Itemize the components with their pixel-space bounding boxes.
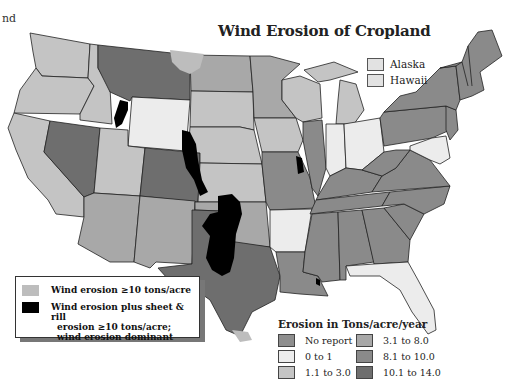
inset-alaska: Alaska [367, 56, 427, 72]
wind-ge10-swatch [22, 285, 39, 296]
class-legend-item: 0 to 1 [278, 350, 356, 363]
class-label: 3.1 to 8.0 [383, 335, 429, 346]
hawaii-label: Hawaii [390, 74, 427, 86]
wind-ge10-label: Wind erosion ≥10 tons/acre [51, 285, 191, 296]
class-label: 0 to 1 [305, 351, 333, 362]
c1-3-swatch [278, 366, 295, 379]
state-washington [30, 33, 90, 78]
state-michigan [336, 80, 364, 124]
sheet-rill-line-2: erosion ≥10 tons/acre; [51, 322, 199, 332]
inset-legend: Alaska Hawaii [367, 56, 427, 88]
state-michigan-upper [304, 62, 358, 82]
overlay-legend: Wind erosion ≥10 tons/acre Wind erosion … [15, 276, 200, 338]
class-legend-item: 1.1 to 3.0 [278, 366, 356, 379]
c0-1-swatch [278, 350, 295, 363]
state-arkansas [270, 209, 312, 252]
state-new-jersey [446, 106, 458, 140]
state-arizona [78, 193, 140, 262]
no-report-swatch [278, 334, 295, 347]
c3-8-swatch [356, 334, 373, 347]
state-iowa [254, 118, 303, 152]
c8-10-swatch [356, 350, 373, 363]
class-label: 10.1 to 14.0 [383, 367, 441, 378]
state-indiana [326, 124, 346, 176]
sheet-rill-line-1: Wind erosion plus sheet & rill [51, 302, 199, 322]
sheet-rill-swatch [22, 302, 39, 313]
wind-erosion-ge10-region-texas [232, 330, 252, 342]
state-new-mexico [134, 196, 195, 268]
class-legend-title: Erosion in Tons/acre/year [278, 318, 456, 330]
alaska-swatch [367, 58, 384, 71]
alaska-label: Alaska [390, 58, 425, 70]
hawaii-swatch [367, 74, 384, 87]
class-legend-item: 10.1 to 14.0 [356, 366, 456, 379]
class-label: No report [305, 335, 352, 346]
sheet-rill-label: Wind erosion plus sheet & rill erosion ≥… [51, 302, 199, 342]
wind-sheet-rill-region-idaho [114, 100, 128, 128]
class-label: 1.1 to 3.0 [305, 367, 351, 378]
state-wyoming [128, 97, 190, 151]
class-label: 8.1 to 10.0 [383, 351, 435, 362]
overlay-legend-item-sheet-rill: Wind erosion plus sheet & rill erosion ≥… [22, 302, 199, 342]
sheet-rill-line-3: wind erosion dominant [51, 332, 199, 342]
overlay-legend-item-wind: Wind erosion ≥10 tons/acre [22, 285, 191, 296]
inset-hawaii: Hawaii [367, 72, 427, 88]
class-legend-item: 8.1 to 10.0 [356, 350, 456, 363]
state-south-dakota [190, 91, 254, 130]
class-legend-item: No report [278, 334, 356, 347]
class-legend-item: 3.1 to 8.0 [356, 334, 456, 347]
class-legend: Erosion in Tons/acre/year No report 3.1 … [278, 318, 456, 379]
c10-14-swatch [356, 366, 373, 379]
